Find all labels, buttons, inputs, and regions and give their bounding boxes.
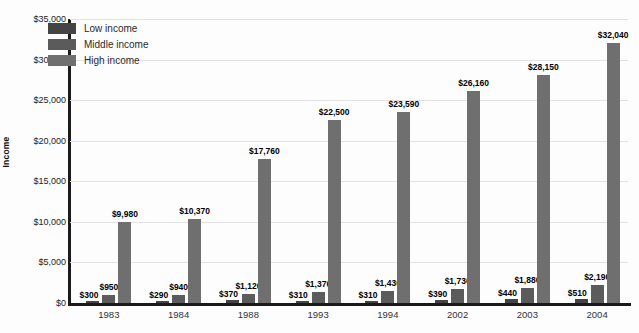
bar-value-label: $300 [79, 290, 98, 300]
bar-middle-income[interactable] [242, 294, 255, 303]
x-axis-line [68, 303, 631, 306]
bar-value-label: $290 [149, 290, 168, 300]
x-tick-label: 2003 [517, 309, 538, 320]
bar-low-income[interactable] [156, 301, 169, 303]
bar-value-label: $310 [358, 290, 377, 300]
bar-value-label: $510 [568, 288, 587, 298]
bar-middle-income[interactable] [172, 295, 185, 303]
bar-high-income[interactable] [258, 159, 271, 303]
x-tick-label: 1983 [98, 309, 119, 320]
bar-middle-income[interactable] [451, 289, 464, 303]
legend-label: Low income [84, 23, 137, 34]
bar-low-income[interactable] [226, 300, 239, 303]
y-tick-label: $25,000 [4, 95, 66, 105]
bar-value-label: $10,370 [179, 206, 210, 216]
bar-high-income[interactable] [537, 75, 550, 303]
bar-value-label: $950 [99, 282, 118, 292]
x-tick-label: 1993 [308, 309, 329, 320]
bar-high-income[interactable] [118, 222, 131, 303]
bar-group: $310$1,430$23,590 [365, 19, 410, 303]
bar-middle-income[interactable] [591, 285, 604, 303]
bar-value-label: $940 [169, 282, 188, 292]
bar-low-income[interactable] [365, 301, 378, 304]
legend-item[interactable]: High income [48, 54, 148, 66]
bar-value-label: $22,500 [319, 107, 350, 117]
bar-middle-income[interactable] [521, 288, 534, 303]
x-tick-label: 1994 [377, 309, 398, 320]
bar-value-label: $9,980 [112, 209, 138, 219]
y-tick-label: $0 [4, 298, 66, 308]
x-tick-label: 1984 [168, 309, 189, 320]
y-tick-label: $15,000 [4, 176, 66, 186]
y-tick-label: $20,000 [4, 136, 66, 146]
chart-legend: Low incomeMiddle incomeHigh income [48, 22, 148, 66]
bar-group: $390$1,730$26,160 [435, 19, 480, 303]
legend-swatch-icon [48, 23, 76, 34]
bar-value-label: $390 [428, 289, 447, 299]
legend-label: Middle income [84, 39, 148, 50]
bar-low-income[interactable] [505, 299, 518, 303]
bar-value-label: $26,160 [458, 78, 489, 88]
bar-group: $290$940$10,370 [156, 19, 201, 303]
bar-high-income[interactable] [188, 219, 201, 303]
bar-low-income[interactable] [575, 299, 588, 303]
plot-area: $300$950$9,9801983$290$940$10,3701984$37… [70, 19, 628, 303]
bar-high-income[interactable] [467, 91, 480, 303]
bar-group: $510$2,190$32,040 [575, 19, 620, 303]
bar-middle-income[interactable] [381, 291, 394, 303]
bar-chart: Income $0$5,000$10,000$15,000$20,000$25,… [0, 0, 639, 333]
bar-group: $440$1,880$28,150 [505, 19, 550, 303]
y-tick-label: $5,000 [4, 257, 66, 267]
bar-high-income[interactable] [607, 43, 620, 303]
bar-low-income[interactable] [296, 301, 309, 304]
bar-middle-income[interactable] [312, 292, 325, 303]
y-tick-label: $10,000 [4, 217, 66, 227]
x-tick-label: 1988 [238, 309, 259, 320]
legend-swatch-icon [48, 55, 76, 66]
bar-middle-income[interactable] [102, 295, 115, 303]
bar-value-label: $23,590 [389, 99, 420, 109]
bar-group: $370$1,120$17,760 [226, 19, 271, 303]
bar-high-income[interactable] [397, 112, 410, 303]
bar-low-income[interactable] [435, 300, 448, 303]
bar-high-income[interactable] [328, 120, 341, 303]
x-tick-label: 2004 [587, 309, 608, 320]
x-tick-label: 2002 [447, 309, 468, 320]
legend-item[interactable]: Low income [48, 22, 148, 34]
legend-label: High income [84, 55, 140, 66]
bar-value-label: $17,760 [249, 146, 280, 156]
bar-value-label: $440 [498, 288, 517, 298]
legend-item[interactable]: Middle income [48, 38, 148, 50]
bar-value-label: $32,040 [598, 30, 629, 40]
bar-value-label: $28,150 [528, 62, 559, 72]
bar-low-income[interactable] [86, 301, 99, 303]
bar-group: $310$1,370$22,500 [296, 19, 341, 303]
bar-value-label: $310 [289, 290, 308, 300]
legend-swatch-icon [48, 39, 76, 50]
